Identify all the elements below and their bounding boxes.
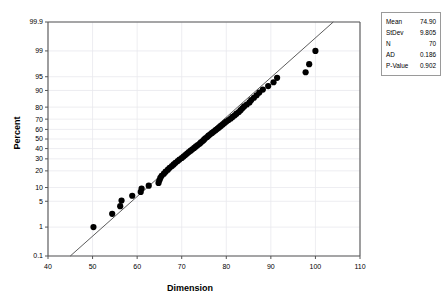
x-tick-label: 80 [222, 263, 230, 270]
probability-plot: 0.115102030405060708090959999.9405060708… [0, 0, 448, 300]
data-point [117, 203, 123, 209]
y-tick-label: 99.9 [29, 18, 43, 25]
data-point [303, 69, 309, 75]
statistic-row: P-Value0.902 [385, 60, 437, 71]
x-tick-label: 90 [267, 263, 275, 270]
data-point [139, 186, 145, 192]
statistic-row: AD0.186 [385, 49, 437, 60]
x-tick-label: 110 [354, 263, 365, 270]
y-tick-label: 30 [35, 155, 43, 162]
y-tick-label: 20 [35, 167, 43, 174]
y-tick-label: 60 [35, 126, 43, 133]
y-tick-label: 95 [35, 73, 43, 80]
data-point [265, 83, 271, 89]
data-point [274, 75, 280, 81]
x-tick-label: 40 [44, 263, 52, 270]
statistic-label: StDev [385, 27, 415, 38]
data-point [90, 224, 96, 230]
x-tick-label: 60 [133, 263, 141, 270]
y-tick-label: 5 [39, 198, 43, 205]
data-point [260, 87, 266, 93]
statistic-label: AD [385, 49, 415, 60]
x-axis-title: Dimension [0, 283, 380, 293]
y-tick-label: 0.1 [33, 252, 43, 259]
x-tick-label: 70 [178, 263, 186, 270]
statistic-label: N [385, 38, 415, 49]
y-tick-label: 10 [35, 184, 43, 191]
x-axis-ticks: 405060708090100110 [44, 256, 366, 270]
statistic-row: Mean74.90 [385, 16, 437, 27]
statistic-label: Mean [385, 16, 415, 27]
y-tick-label: 70 [35, 116, 43, 123]
y-tick-label: 90 [35, 87, 43, 94]
y-tick-label: 80 [35, 104, 43, 111]
statistic-value: 74.90 [415, 16, 437, 27]
statistic-value: 70 [415, 38, 437, 49]
x-tick-label: 100 [310, 263, 322, 270]
statistics-table: Mean74.90StDev9.805N70AD0.186P-Value0.90… [385, 16, 437, 72]
data-point [312, 48, 318, 54]
y-tick-label: 1 [39, 223, 43, 230]
statistics-box: Mean74.90StDev9.805N70AD0.186P-Value0.90… [381, 12, 441, 76]
y-axis-ticks: 0.115102030405060708090959999.9 [29, 18, 48, 259]
statistic-row: N70 [385, 38, 437, 49]
y-axis-title: Percent [12, 88, 22, 178]
data-point [129, 193, 135, 199]
statistic-value: 0.186 [415, 49, 437, 60]
statistic-label: P-Value [385, 60, 415, 71]
data-point [146, 183, 152, 189]
x-tick-label: 50 [89, 263, 97, 270]
statistic-row: StDev9.805 [385, 27, 437, 38]
y-tick-label: 40 [35, 145, 43, 152]
statistic-value: 9.805 [415, 27, 437, 38]
y-tick-label: 50 [35, 135, 43, 142]
data-point [306, 61, 312, 67]
data-point [109, 211, 115, 217]
data-point [118, 197, 124, 203]
y-tick-label: 99 [35, 47, 43, 54]
statistic-value: 0.902 [415, 60, 437, 71]
